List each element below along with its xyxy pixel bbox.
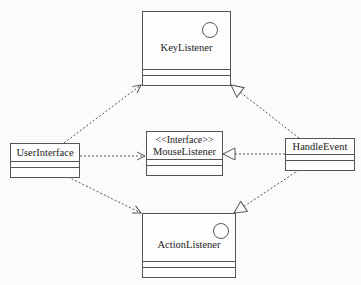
class-userinterface-name: UserInterface [16, 147, 73, 159]
class-mouselistener-name: MouseListener [153, 146, 216, 158]
class-userinterface-name-compartment: UserInterface [11, 144, 79, 161]
class-mouselistener[interactable]: <<Interface>> MouseListener [146, 131, 223, 176]
class-mouselistener-name-compartment: <<Interface>> MouseListener [147, 132, 222, 159]
class-actionlistener-name-compartment: ActionListener [143, 214, 235, 261]
realization-handleevent-to-keylistener [231, 85, 299, 138]
class-handleevent-operations [286, 160, 354, 170]
class-keylistener-name: KeyListener [161, 42, 213, 54]
class-keylistener[interactable]: KeyListener [142, 11, 231, 86]
uml-diagram-canvas: KeyListener UserInterface <<Interface>> … [0, 0, 361, 285]
class-actionlistener-name: ActionListener [158, 239, 221, 251]
class-actionlistener[interactable]: ActionListener [142, 213, 236, 278]
class-handleevent-name: HandleEvent [293, 141, 348, 153]
dependency-userinterface-to-actionlistener [68, 177, 141, 213]
class-userinterface-operations [11, 167, 79, 177]
class-actionlistener-operations [143, 267, 235, 277]
class-mouselistener-stereotype: <<Interface>> [155, 134, 213, 146]
class-handleevent-name-compartment: HandleEvent [286, 139, 354, 154]
interface-circle-icon [202, 22, 218, 38]
class-keylistener-operations [143, 75, 230, 85]
class-handleevent[interactable]: HandleEvent [285, 138, 355, 171]
interface-circle-icon [213, 223, 229, 239]
class-keylistener-name-compartment: KeyListener [143, 12, 230, 69]
class-mouselistener-operations [147, 165, 222, 175]
class-userinterface[interactable]: UserInterface [10, 143, 80, 178]
dependency-userinterface-to-keylistener [64, 85, 141, 143]
realization-handleevent-to-actionlistener [234, 170, 299, 213]
